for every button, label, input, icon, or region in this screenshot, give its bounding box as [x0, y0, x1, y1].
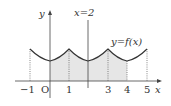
curve-label: y=f(x) — [110, 36, 142, 47]
tick-1: 1 — [66, 84, 72, 95]
tick-neg1: −1 — [20, 84, 35, 95]
x-axis-arrow-icon — [157, 79, 162, 83]
tick-4: 4 — [124, 84, 130, 95]
graph: y x=2 y=f(x) −1 O 1 3 4 5 x — [0, 0, 171, 106]
x-axis-label: x — [155, 84, 161, 95]
y-axis-arrow-icon — [48, 10, 52, 15]
origin-label: O — [41, 84, 49, 95]
y-axis-label: y — [38, 8, 45, 19]
tick-5: 5 — [144, 84, 150, 95]
curve-f — [30, 49, 147, 61]
shaded-area — [50, 49, 127, 81]
vertical-line-label: x=2 — [74, 7, 94, 18]
tick-3: 3 — [105, 84, 111, 95]
